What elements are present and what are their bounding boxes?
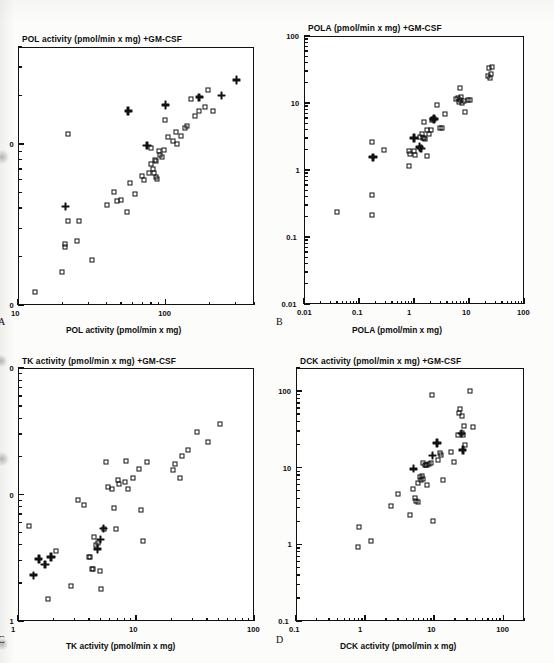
y-tick xyxy=(296,620,302,621)
x-tick xyxy=(521,301,522,305)
x-tick-label: 1 xyxy=(11,625,15,634)
x-tick xyxy=(411,301,412,305)
y-tick xyxy=(304,303,310,304)
y-tick xyxy=(304,38,308,39)
y-tick xyxy=(18,500,22,501)
y-tick-label: 100 xyxy=(278,387,291,396)
data-point-square xyxy=(104,202,109,207)
x-tick xyxy=(344,618,345,622)
data-point-square xyxy=(467,389,472,394)
panel-a-x-axis-label: POL activity (pmol/min x mg) xyxy=(66,325,181,335)
data-point-square xyxy=(46,596,51,601)
y-tick xyxy=(18,494,24,495)
y-tick xyxy=(304,190,308,191)
y-tick xyxy=(296,390,302,391)
y-tick xyxy=(296,507,300,508)
x-tick xyxy=(466,301,467,305)
data-point-cross xyxy=(96,535,105,544)
data-point-square xyxy=(442,112,447,117)
y-tick-label: 0.01 xyxy=(282,300,297,309)
data-point-square xyxy=(195,430,200,435)
data-point-square xyxy=(423,136,428,141)
scan-smudge xyxy=(0,355,8,367)
x-tick xyxy=(466,618,467,622)
y-tick xyxy=(296,467,302,468)
x-tick xyxy=(418,618,419,622)
x-tick xyxy=(206,618,207,622)
y-tick xyxy=(18,256,22,257)
y-tick xyxy=(304,239,308,240)
y-tick-label: 10 xyxy=(291,99,299,108)
data-point-square xyxy=(27,524,32,529)
y-tick xyxy=(304,35,310,36)
data-point-square xyxy=(441,478,446,483)
data-point-cross xyxy=(409,464,418,473)
x-tick xyxy=(109,618,110,622)
x-tick xyxy=(523,618,524,622)
data-point-cross xyxy=(93,545,102,554)
data-point-square xyxy=(174,141,179,146)
x-tick xyxy=(430,301,431,305)
data-point-cross xyxy=(428,451,437,460)
data-point-square xyxy=(206,440,211,445)
data-point-square xyxy=(415,499,420,504)
data-point-square xyxy=(162,147,167,152)
data-point-square xyxy=(452,459,457,464)
x-tick xyxy=(350,301,351,305)
data-point-square xyxy=(126,487,131,492)
y-tick xyxy=(296,413,300,414)
x-tick-label: 100 xyxy=(496,625,509,634)
x-tick xyxy=(523,298,524,304)
data-point-square xyxy=(131,476,136,481)
y-tick xyxy=(296,479,300,480)
data-point-square xyxy=(77,219,82,224)
y-tick xyxy=(304,263,308,264)
data-point-square xyxy=(463,109,468,114)
x-tick xyxy=(413,618,414,622)
x-tick xyxy=(430,618,431,622)
x-tick xyxy=(485,301,486,305)
y-tick xyxy=(18,228,22,229)
data-point-square xyxy=(90,258,95,263)
y-tick xyxy=(18,380,22,381)
y-tick xyxy=(18,168,22,169)
x-tick xyxy=(135,615,136,621)
y-tick-label: 1 xyxy=(9,617,13,626)
data-point-square xyxy=(411,487,416,492)
y-tick xyxy=(18,456,22,457)
y-tick xyxy=(304,62,308,63)
x-tick xyxy=(316,618,317,622)
x-tick xyxy=(408,301,409,305)
y-tick xyxy=(18,513,22,514)
x-tick xyxy=(336,301,337,305)
data-point-square xyxy=(429,393,434,398)
data-point-square xyxy=(136,466,141,471)
y-tick xyxy=(304,129,308,130)
x-tick xyxy=(227,618,228,622)
x-tick xyxy=(88,618,89,622)
x-tick xyxy=(320,301,321,305)
data-point-square xyxy=(428,461,433,466)
panel-c-plot-frame xyxy=(18,368,254,621)
data-point-square xyxy=(420,476,425,481)
y-tick xyxy=(18,620,24,621)
data-point-square xyxy=(356,545,361,550)
y-tick xyxy=(296,484,300,485)
data-point-cross xyxy=(432,439,441,448)
x-tick xyxy=(364,615,365,621)
x-tick xyxy=(433,615,434,621)
y-tick xyxy=(18,395,22,396)
data-point-square xyxy=(396,492,401,497)
x-tick xyxy=(397,618,398,622)
x-tick xyxy=(106,302,107,306)
panel-c-x-axis-label: TK activity (pmol/min x mg) xyxy=(66,641,175,651)
data-point-cross xyxy=(29,571,38,580)
data-point-cross xyxy=(410,134,419,143)
x-tick xyxy=(235,302,236,306)
y-tick xyxy=(304,50,308,51)
y-tick-label: 10 xyxy=(283,464,291,473)
y-tick xyxy=(296,521,300,522)
x-tick xyxy=(375,301,376,305)
data-point-square xyxy=(145,460,150,465)
y-tick xyxy=(304,283,308,284)
